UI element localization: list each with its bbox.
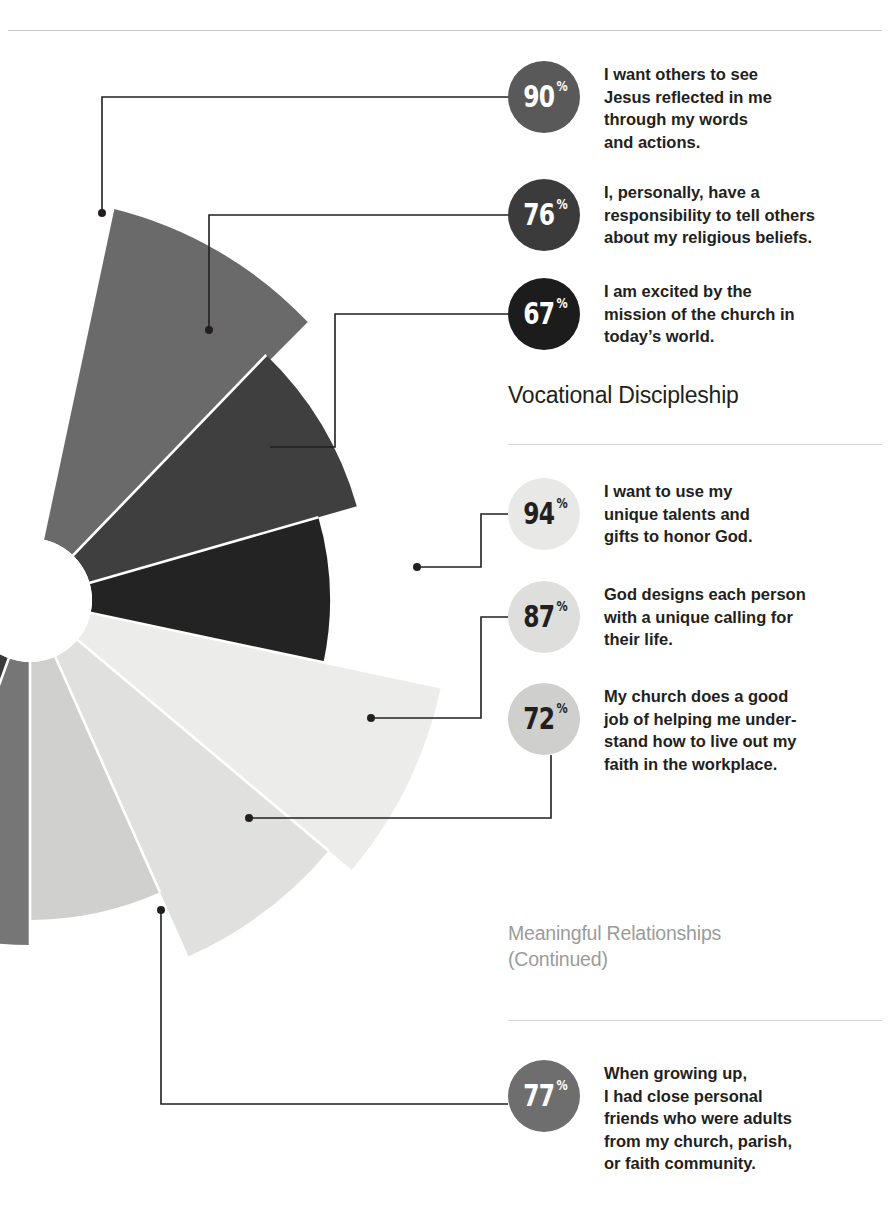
stat-bubble: 67%	[508, 278, 580, 350]
stat-value: 72	[523, 704, 554, 734]
stat-line: I am excited by the	[604, 280, 795, 303]
stat-bubble: 72%	[508, 683, 580, 755]
stat-bubble: 87%	[508, 581, 580, 653]
leader-dot-76	[205, 326, 213, 334]
stat-item: 76% I, personally, have a responsibility…	[508, 179, 890, 251]
stat-statement: God designs each person with a unique ca…	[604, 581, 806, 651]
stat-line: I want to use my	[604, 480, 752, 503]
stat-line: mission of the church in	[604, 303, 795, 326]
leader-line-72	[249, 755, 551, 818]
section-heading-line2: (Continued)	[508, 946, 721, 972]
stat-bubble: 94%	[508, 478, 580, 550]
stat-value: 76	[523, 200, 554, 230]
percent-symbol: %	[557, 296, 568, 310]
stat-line: I, personally, have a	[604, 181, 815, 204]
leader-line-94	[417, 514, 508, 567]
leader-line-77	[161, 910, 508, 1104]
stat-item: 72% My church does a good job of helping…	[508, 683, 890, 775]
stat-line: God designs each person	[604, 583, 806, 606]
stat-line: faith in the workplace.	[604, 753, 797, 776]
stat-value: 77	[523, 1081, 554, 1111]
stat-line: Jesus reflected in me	[604, 86, 772, 109]
leader-line-76	[209, 215, 508, 330]
stat-line: unique talents and	[604, 503, 752, 526]
stat-value: 94	[523, 499, 554, 529]
percent-symbol: %	[557, 701, 568, 715]
leader-line-87	[371, 617, 508, 718]
leader-dot-77	[157, 906, 165, 914]
leader-dot-72	[245, 814, 253, 822]
leader-line-90	[102, 97, 508, 213]
stat-line: I want others to see	[604, 63, 772, 86]
stat-statement: I want others to see Jesus reflected in …	[604, 61, 772, 153]
stat-item: 87% God designs each person with a uniqu…	[508, 581, 890, 653]
percent-symbol: %	[557, 496, 568, 510]
section-divider	[508, 1020, 882, 1021]
section-heading-line1: Meaningful Relationships	[508, 920, 721, 946]
stat-line: friends who were adults	[604, 1107, 792, 1130]
stat-line: or faith community.	[604, 1152, 792, 1175]
stat-bubble: 90%	[508, 61, 580, 133]
stat-line: their life.	[604, 628, 806, 651]
stat-line: and actions.	[604, 131, 772, 154]
stat-line: gifts to honor God.	[604, 525, 752, 548]
stat-line: responsibility to tell others	[604, 204, 815, 227]
leader-dot-87	[367, 714, 375, 722]
section-heading-meaningful-relationships-continued: Meaningful Relationships (Continued)	[508, 920, 721, 972]
stat-statement: I am excited by the mission of the churc…	[604, 278, 795, 348]
leader-line-67	[270, 314, 508, 447]
stat-item: 90% I want others to see Jesus reflected…	[508, 61, 890, 153]
stat-line: from my church, parish,	[604, 1130, 792, 1153]
stat-value: 87	[523, 602, 554, 632]
stat-line: today’s world.	[604, 325, 795, 348]
leader-dot-90	[98, 209, 106, 217]
stat-value: 67	[523, 299, 554, 329]
stat-statement: When growing up, I had close personal fr…	[604, 1060, 792, 1175]
stat-statement: I want to use my unique talents and gift…	[604, 478, 752, 548]
stat-item: 67% I am excited by the mission of the c…	[508, 278, 890, 350]
stat-line: stand how to live out my	[604, 730, 797, 753]
stat-statement: My church does a good job of helping me …	[604, 683, 797, 775]
stat-value: 90	[523, 82, 554, 112]
stat-statement: I, personally, have a responsibility to …	[604, 179, 815, 249]
stat-line: through my words	[604, 108, 772, 131]
stat-item: 77% When growing up, I had close persona…	[508, 1060, 890, 1175]
percent-symbol: %	[557, 599, 568, 613]
stat-bubble: 76%	[508, 179, 580, 251]
stat-line: job of helping me under-	[604, 708, 797, 731]
stat-line: My church does a good	[604, 685, 797, 708]
section-heading-vocational-discipleship: Vocational Discipleship	[508, 382, 739, 409]
stat-line: about my religious beliefs.	[604, 226, 815, 249]
stat-line: When growing up,	[604, 1062, 792, 1085]
leader-dot-94	[413, 563, 421, 571]
stat-bubble: 77%	[508, 1060, 580, 1132]
stat-line: I had close personal	[604, 1085, 792, 1108]
stat-line: with a unique calling for	[604, 606, 806, 629]
percent-symbol: %	[557, 197, 568, 211]
statistics-column: 90% I want others to see Jesus reflected…	[508, 0, 890, 1211]
percent-symbol: %	[557, 79, 568, 93]
section-divider	[508, 444, 882, 445]
percent-symbol: %	[557, 1078, 568, 1092]
stat-item: 94% I want to use my unique talents and …	[508, 478, 890, 550]
